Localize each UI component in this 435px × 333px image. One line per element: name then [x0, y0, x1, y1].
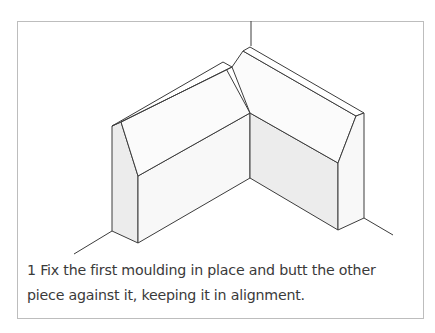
left-moulding [112, 62, 250, 243]
right-moulding [232, 47, 364, 230]
caption-line-2: piece against it, keeping it in alignmen… [27, 283, 417, 308]
floor-line-left [74, 231, 112, 254]
caption-line-1: 1 Fix the first moulding in place and bu… [27, 258, 417, 283]
figure-caption: 1 Fix the first moulding in place and bu… [27, 258, 417, 308]
floor-line-right [364, 218, 393, 235]
